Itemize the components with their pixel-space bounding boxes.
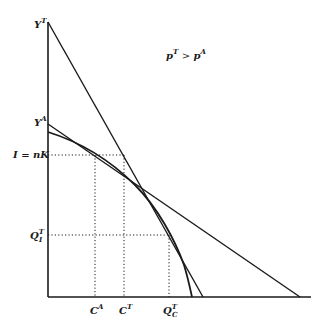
label-ct: CT	[119, 304, 132, 316]
label-ya: YA	[34, 116, 47, 128]
label-condition: pT > pA	[166, 49, 206, 61]
production-possibility-curve	[48, 132, 192, 297]
label-qct: QTC	[163, 304, 178, 318]
ppf-diagram	[0, 0, 323, 324]
dotted-guides	[48, 155, 169, 297]
label-yt: YT	[34, 18, 46, 30]
label-investment: I = nK	[13, 150, 49, 160]
price-line-autarky	[48, 124, 300, 297]
label-ca: CA	[90, 304, 103, 316]
label-qit: QTI	[30, 229, 42, 243]
